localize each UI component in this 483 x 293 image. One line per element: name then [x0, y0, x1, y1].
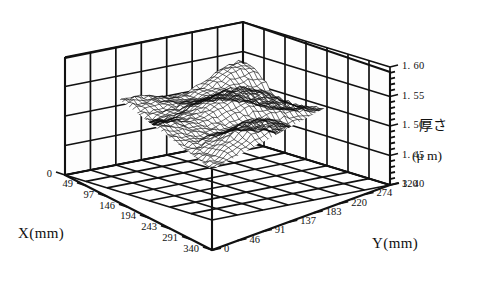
x-tick-label: 291 — [162, 232, 178, 243]
z-tick-label: 1. 55 — [402, 90, 425, 101]
x-tick-label: 0 — [47, 168, 52, 179]
x-tick-label: 340 — [183, 243, 199, 254]
y-tick-label: 91 — [275, 224, 286, 235]
x-tick-label: 194 — [120, 210, 137, 221]
y-axis-title: Y(mm) — [372, 235, 418, 252]
x-tick-label: 146 — [99, 200, 115, 211]
x-tick-label: 49 — [63, 178, 74, 189]
z-axis-units: (μ m) — [412, 148, 442, 163]
y-tick-label: 183 — [326, 206, 342, 217]
y-tick-label: 137 — [300, 215, 316, 226]
x-tick-label: 243 — [141, 221, 157, 232]
z-tick-label: 1. 60 — [402, 60, 425, 71]
chart-figure: 04997146194243291340 0469113718322027432… — [0, 0, 483, 293]
z-tick-label: 1. 40 — [402, 178, 425, 189]
y-tick-label: 0 — [224, 243, 229, 254]
z-axis-title: 厚さ — [419, 117, 447, 133]
y-tick-label: 220 — [351, 197, 367, 208]
z-axis-ticks — [390, 65, 398, 185]
x-tick-label: 97 — [84, 189, 95, 200]
surface-plot-canvas: 04997146194243291340 0469113718322027432… — [0, 0, 483, 293]
x-axis-title: X(mm) — [18, 225, 64, 242]
y-tick-label: 274 — [377, 187, 394, 198]
y-tick-label: 46 — [249, 234, 260, 245]
